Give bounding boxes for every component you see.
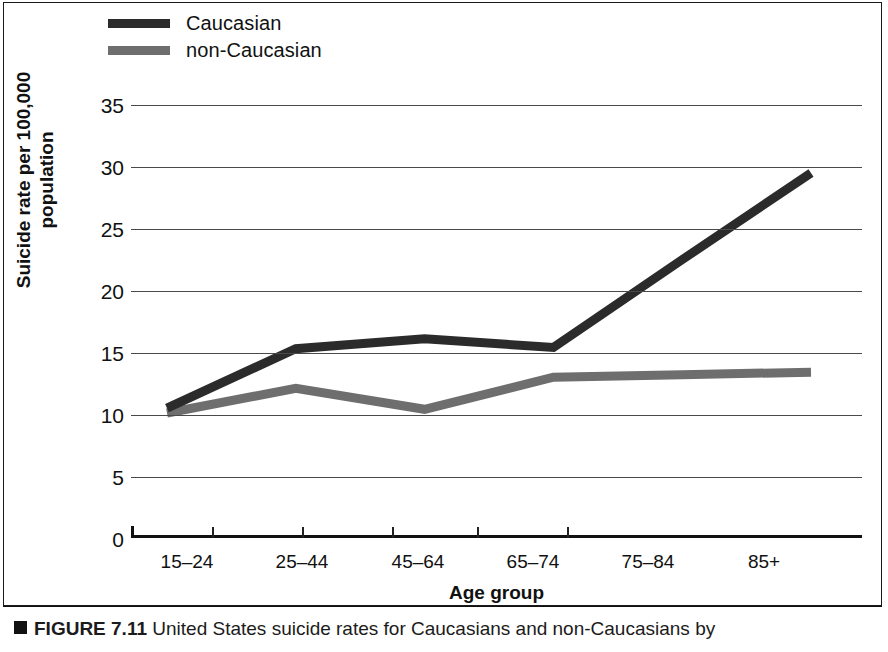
y-tick-label-5: 5 bbox=[112, 467, 124, 488]
figure-page: Caucasian non-Caucasian Suicide rate per… bbox=[0, 0, 888, 652]
y-tick-label-10: 10 bbox=[101, 405, 124, 426]
caption-figure-number: FIGURE 7.11 bbox=[34, 618, 147, 639]
y-tick-label-30: 30 bbox=[101, 157, 124, 178]
x-axis-tick-1 bbox=[212, 527, 214, 538]
gridline-25 bbox=[131, 229, 862, 230]
x-tick-label-15-24: 15–24 bbox=[161, 551, 214, 573]
gridline-10 bbox=[131, 415, 862, 416]
chart-legend: Caucasian non-Caucasian bbox=[108, 10, 322, 64]
chart-series-layer bbox=[131, 104, 862, 538]
series-line-non-caucasian bbox=[167, 372, 811, 413]
y-tick-label-25: 25 bbox=[101, 219, 124, 240]
legend-swatch-caucasian bbox=[108, 19, 170, 28]
x-axis-tick-5 bbox=[567, 527, 569, 538]
chart-plot-area bbox=[131, 104, 862, 538]
y-axis-title: Suicide rate per 100,000 population bbox=[14, 180, 62, 510]
x-tick-label-25-44: 25–44 bbox=[276, 551, 329, 573]
caption-text: United States suicide rates for Caucasia… bbox=[152, 618, 715, 639]
x-axis-tick-4 bbox=[477, 527, 479, 538]
y-axis-title-line1: Suicide rate per 100,000 bbox=[13, 72, 34, 289]
x-tick-label-75-84: 75–84 bbox=[622, 551, 675, 573]
x-axis-title: Age group bbox=[131, 582, 862, 604]
x-axis-line bbox=[131, 535, 862, 538]
y-tick-label-35: 35 bbox=[101, 95, 124, 116]
y-axis-title-line2: population bbox=[36, 131, 57, 228]
gridline-35 bbox=[131, 105, 862, 106]
x-tick-label-65-74: 65–74 bbox=[507, 551, 560, 573]
gridline-5 bbox=[131, 477, 862, 478]
x-tick-label-45-64: 45–64 bbox=[392, 551, 445, 573]
y-tick-label-20: 20 bbox=[101, 281, 124, 302]
x-tick-label-85plus: 85+ bbox=[748, 551, 780, 573]
x-axis-tick-3 bbox=[392, 527, 394, 538]
legend-item-caucasian: Caucasian bbox=[108, 10, 322, 37]
y-tick-label-0: 0 bbox=[112, 529, 124, 550]
x-axis-tick-labels: 15–24 25–44 45–64 65–74 75–84 85+ bbox=[131, 551, 862, 579]
figure-caption: FIGURE 7.11 United States suicide rates … bbox=[14, 616, 874, 642]
y-axis-tick-labels: 35 30 25 20 15 10 5 0 bbox=[62, 92, 124, 552]
x-axis-tick-2 bbox=[302, 527, 304, 538]
y-tick-label-15: 15 bbox=[101, 343, 124, 364]
y-axis-line bbox=[131, 526, 134, 538]
gridline-30 bbox=[131, 167, 862, 168]
gridline-20 bbox=[131, 291, 862, 292]
legend-label-non-caucasian: non-Caucasian bbox=[186, 39, 322, 62]
caption-bullet-icon bbox=[14, 621, 27, 634]
legend-label-caucasian: Caucasian bbox=[186, 12, 281, 35]
legend-swatch-non-caucasian bbox=[108, 46, 170, 55]
legend-item-non-caucasian: non-Caucasian bbox=[108, 37, 322, 64]
gridline-15 bbox=[131, 353, 862, 354]
